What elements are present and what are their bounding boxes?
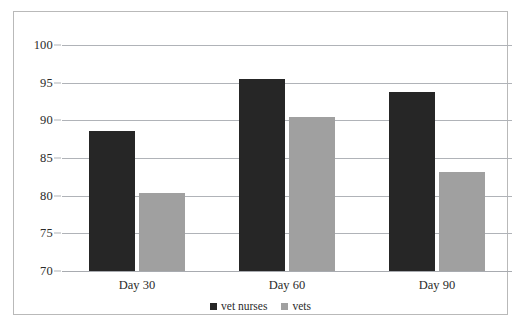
legend-label: vet nurses (221, 300, 267, 312)
bar-vet-nurses-day-30 (89, 131, 135, 271)
bar-vet-nurses-day-60 (239, 79, 285, 271)
y-tick-mark-90 (54, 120, 61, 121)
y-tick-label-95: 95 (40, 75, 53, 90)
chart-legend: vet nursesvets (14, 300, 507, 312)
y-tick-label-75: 75 (40, 226, 53, 241)
bar-vets-day-90 (439, 172, 485, 271)
y-tick-label-85: 85 (40, 151, 53, 166)
legend-item-vets: vets (281, 300, 311, 312)
bar-vet-nurses-day-90 (389, 92, 435, 271)
legend-swatch-icon-vet-nurses (210, 303, 217, 310)
y-tick-mark-85 (54, 158, 61, 159)
x-axis-label-day-60: Day 60 (212, 278, 362, 293)
y-tick-label-90: 90 (40, 113, 53, 128)
gridline-70: 70 (62, 271, 512, 272)
legend-label: vets (292, 300, 311, 312)
bar-group-day-60: Day 60 (212, 45, 362, 271)
y-tick-label-100: 100 (34, 38, 53, 53)
bar-vets-day-30 (139, 193, 185, 271)
chart-frame: 707580859095100 Day 30Day 60Day 90 vet n… (13, 11, 508, 315)
y-tick-mark-70 (54, 271, 61, 272)
y-tick-mark-100 (54, 45, 61, 46)
y-tick-label-80: 80 (40, 188, 53, 203)
legend-swatch-icon-vets (281, 303, 288, 310)
bar-vets-day-60 (289, 117, 335, 271)
y-tick-label-70: 70 (40, 264, 53, 279)
bar-group-day-30: Day 30 (62, 45, 212, 271)
x-axis-label-day-30: Day 30 (62, 278, 212, 293)
y-tick-mark-80 (54, 195, 61, 196)
y-tick-mark-75 (54, 233, 61, 234)
bar-group-day-90: Day 90 (362, 45, 512, 271)
plot-area: 707580859095100 Day 30Day 60Day 90 (62, 45, 512, 271)
y-tick-mark-95 (54, 82, 61, 83)
x-axis-label-day-90: Day 90 (362, 278, 512, 293)
legend-item-vet-nurses: vet nurses (210, 300, 267, 312)
chart-figure: 707580859095100 Day 30Day 60Day 90 vet n… (0, 0, 521, 327)
